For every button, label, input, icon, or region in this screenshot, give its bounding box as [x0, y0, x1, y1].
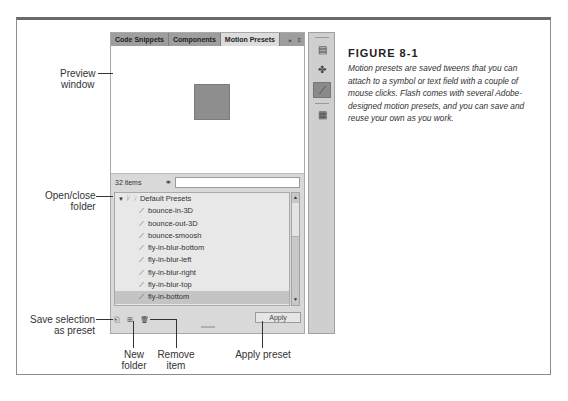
motion-path-icon: ⟋: [139, 244, 144, 251]
callout-open-close-folder: Open/close folder: [45, 190, 96, 212]
callout-apply-preset: Apply preset: [228, 349, 298, 360]
remove-item-icon[interactable]: 🗑: [140, 316, 149, 324]
motion-presets-icon[interactable]: ⟋: [313, 82, 331, 98]
scroll-thumb[interactable]: [292, 203, 299, 237]
motion-path-icon: ⟋: [139, 281, 144, 288]
preset-label: fly-in-blur-top: [148, 280, 192, 289]
callout-text: Save selection: [30, 314, 95, 325]
preset-label: fly-in-blur-bottom: [148, 243, 204, 252]
callout-text: Preview: [60, 68, 96, 79]
search-input[interactable]: [175, 177, 300, 188]
leader-line: [150, 319, 176, 320]
callout-text: Remove: [155, 349, 197, 360]
preset-label: fly-in-blur-left: [148, 255, 191, 264]
callout-save-selection: Save selection as preset: [30, 314, 95, 336]
preset-label: bounce-out-3D: [148, 219, 198, 228]
callout-text: Open/close: [45, 190, 96, 201]
dock-separator: [315, 37, 329, 38]
folder-icon: 🗁: [127, 194, 137, 203]
callout-remove-item: Remove item: [155, 349, 197, 371]
motion-path-icon: ⟋: [139, 293, 144, 300]
preset-item[interactable]: ⟋fly-in-blur-bottom: [115, 242, 289, 254]
leader-line: [96, 319, 113, 320]
panel-menu-icon[interactable]: ≡: [294, 37, 304, 43]
preset-item[interactable]: ⟋bounce-in-3D: [115, 205, 289, 217]
callout-preview-window: Preview window: [60, 68, 96, 90]
callout-text: item: [155, 360, 197, 371]
motion-path-icon: ⟋: [139, 256, 144, 263]
tab-code-snippets[interactable]: Code Snippets: [111, 33, 169, 46]
callout-text: New: [120, 349, 148, 360]
leader-line: [96, 196, 113, 197]
callout-text: folder: [120, 360, 148, 371]
motion-path-icon: ⟋: [139, 207, 144, 214]
code-snippets-icon[interactable]: ▤: [313, 42, 331, 58]
preset-item-selected[interactable]: ⟋fly-in-bottom: [115, 291, 289, 303]
item-count: 32 items: [115, 179, 141, 186]
panel-tab-bar: Code Snippets Components Motion Presets …: [111, 33, 304, 46]
motion-path-icon: ⟋: [139, 220, 144, 227]
preset-item[interactable]: ⟋bounce-smoosh: [115, 230, 289, 242]
figure-caption: Motion presets are saved tweens that you…: [348, 62, 528, 125]
components-icon[interactable]: ✤: [313, 62, 331, 78]
expand-panel-icon[interactable]: »: [285, 37, 294, 43]
preset-label: fly-in-bottom: [148, 292, 189, 301]
leader-line: [262, 321, 263, 348]
preview-symbol: [194, 84, 230, 120]
callout-text: window: [60, 79, 96, 90]
figure-title: FIGURE 8-1: [348, 47, 419, 59]
callout-text: folder: [45, 201, 96, 212]
leader-line: [133, 321, 134, 348]
scroll-up-arrow-icon[interactable]: ▲: [292, 194, 299, 202]
preset-item[interactable]: ⟋fly-in-blur-right: [115, 267, 289, 279]
motion-presets-panel: Code Snippets Components Motion Presets …: [110, 32, 305, 334]
motion-path-icon: ⟋: [139, 232, 144, 239]
tab-components[interactable]: Components: [169, 33, 221, 46]
tab-motion-presets[interactable]: Motion Presets: [221, 33, 280, 46]
preset-label: fly-in-blur-right: [148, 268, 196, 277]
preset-label: fly-in-left: [148, 305, 176, 306]
callout-new-folder: New folder: [120, 349, 148, 371]
panel-bottom-bar: ⎗ ⊞ 🗑 Apply: [111, 309, 304, 329]
preview-window: [111, 46, 304, 173]
tree-scrollbar[interactable]: ▲ ▼: [291, 192, 300, 306]
library-icon[interactable]: ▦: [313, 107, 331, 123]
dock-separator: [315, 103, 329, 104]
presets-list-area: 32 items ⚭ ▼🗁Default Presets ⟋bounce-in-…: [111, 173, 304, 333]
preset-label: bounce-smoosh: [148, 231, 201, 240]
motion-path-icon: ⟋: [139, 269, 144, 276]
panel-dock: ▤ ✤ ⟋ ▦: [308, 32, 335, 334]
callout-text: as preset: [30, 325, 95, 336]
resize-grip[interactable]: [201, 326, 215, 328]
save-selection-as-preset-icon[interactable]: ⎗: [114, 316, 120, 324]
folder-label: Default Presets: [140, 194, 191, 203]
leader-line: [176, 319, 177, 348]
scroll-down-arrow-icon[interactable]: ▼: [292, 296, 299, 304]
folder-default-presets[interactable]: ▼🗁Default Presets: [115, 193, 289, 205]
leader-line: [98, 73, 113, 74]
preset-item[interactable]: ⟋fly-in-left: [115, 304, 289, 306]
preset-label: bounce-in-3D: [148, 206, 193, 215]
presets-tree: ▼🗁Default Presets ⟋bounce-in-3D ⟋bounce-…: [114, 192, 290, 306]
preset-item[interactable]: ⟋bounce-out-3D: [115, 218, 289, 230]
preset-item[interactable]: ⟋fly-in-blur-left: [115, 254, 289, 266]
preset-item[interactable]: ⟋fly-in-blur-top: [115, 279, 289, 291]
disclosure-triangle-icon[interactable]: ▼: [118, 196, 124, 202]
binoculars-icon: ⚭: [165, 178, 172, 187]
